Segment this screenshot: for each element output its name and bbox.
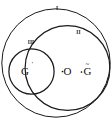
region-label-I: I — [56, 5, 58, 11]
point-label-O: O — [64, 65, 72, 77]
point-mark-G-tilde: ~ — [86, 60, 90, 68]
left-circle-III — [9, 49, 54, 94]
point-mark-G-prime: ' — [32, 60, 33, 68]
point-dot-G-tilde — [81, 71, 83, 73]
circle-diagram: I II III G ' O G ~ — [0, 0, 112, 121]
region-label-II: II — [76, 29, 80, 35]
figure-container: I II III G ' O G ~ — [0, 0, 112, 121]
region-label-III: III — [28, 39, 35, 45]
point-label-G-prime: G — [21, 65, 29, 77]
